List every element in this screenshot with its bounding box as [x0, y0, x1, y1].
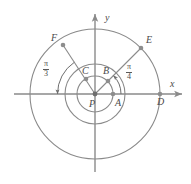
point-marker-C: [84, 77, 89, 82]
angle-pi-over-3-denominator: 3: [43, 70, 49, 78]
point-label-A: A: [115, 98, 121, 108]
angle-pi-over-4-denominator: 4: [126, 73, 132, 81]
point-label-E: E: [146, 35, 152, 45]
angle-label-pi-over-4: π 4: [126, 63, 132, 81]
angle-pi-over-4-numerator: π: [126, 63, 132, 71]
polar-diagram-figure: y x P A B C D E F π 3 π 4: [0, 0, 191, 184]
point-marker-A: [111, 92, 116, 97]
ray-P-to-E: [95, 48, 141, 94]
point-label-F: F: [51, 33, 57, 43]
point-marker-B: [106, 79, 111, 84]
point-label-P: P: [89, 99, 95, 109]
point-marker-P: [93, 92, 98, 97]
y-axis-label: y: [105, 13, 109, 23]
point-marker-E: [139, 46, 144, 51]
point-label-C: C: [82, 66, 89, 76]
angle-label-pi-over-3: π 3: [43, 60, 49, 78]
point-marker-F: [61, 43, 66, 48]
point-label-B: B: [103, 66, 109, 76]
x-axis-label: x: [170, 79, 174, 89]
angle-pi-over-3-numerator: π: [43, 60, 49, 68]
angle-arc-pi-over-4: [113, 76, 121, 94]
diagram-canvas: [0, 0, 191, 184]
point-label-D: D: [157, 97, 164, 107]
